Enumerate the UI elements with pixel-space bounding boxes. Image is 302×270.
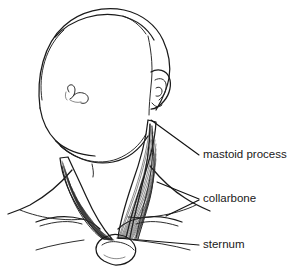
anatomy-illustration: mastoid process collarbone sternum (0, 0, 302, 270)
figure-background (0, 0, 302, 270)
anatomy-figure: mastoid process collarbone sternum (0, 0, 302, 270)
label-sternum: sternum (203, 238, 245, 250)
label-mastoid-process: mastoid process (203, 148, 287, 160)
label-collarbone: collarbone (203, 192, 256, 204)
